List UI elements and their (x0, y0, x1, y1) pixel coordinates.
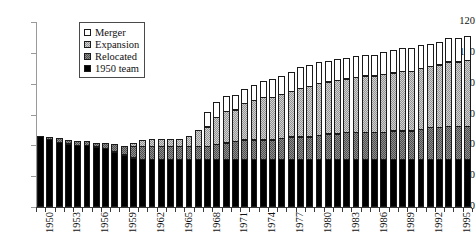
x-axis-tick-label: 1983 (351, 212, 361, 233)
bar-segment-merger (455, 38, 462, 63)
bar-segment-merger (241, 89, 248, 104)
bar-segment-1950-team (121, 155, 128, 207)
x-axis-tick (231, 208, 232, 212)
x-axis-tick-label: 1977 (295, 212, 305, 233)
bar-segment-relocated (223, 143, 230, 160)
bar-1964 (167, 138, 174, 207)
bar-1978 (297, 65, 304, 207)
bar-1990 (408, 47, 415, 207)
x-axis-tick (249, 208, 250, 212)
bar-segment-relocated (278, 138, 285, 160)
bar-segment-merger (371, 55, 378, 77)
bar-segment-1950-team (408, 159, 415, 207)
x-axis-tick-label: 1965 (184, 212, 194, 233)
bar-1960 (130, 142, 137, 207)
bar-1983 (343, 56, 350, 207)
legend-item-relocated: Relocated (84, 50, 139, 62)
bar-segment-relocated (130, 146, 137, 158)
bar-segment-merger (306, 65, 313, 87)
bar-1958 (111, 144, 118, 207)
x-axis-tick (166, 208, 167, 212)
x-axis-tick (277, 208, 278, 212)
bar-segment-expansion (186, 136, 193, 147)
bar-segment-expansion (371, 76, 378, 133)
bar-segment-relocated (353, 132, 360, 160)
bar-segment-merger (316, 62, 323, 84)
bar-segment-expansion (418, 68, 425, 130)
bar-segment-relocated (390, 131, 397, 160)
x-axis-tick (472, 208, 473, 212)
bar-segment-1950-team (390, 159, 397, 207)
bar-segment-expansion (232, 110, 239, 142)
bar-segment-merger (390, 50, 397, 73)
bar-segment-relocated (167, 146, 174, 160)
bar-segment-1950-team (436, 159, 443, 207)
bar-segment-1950-team (186, 159, 193, 207)
legend-item-merger: Merger (84, 26, 139, 38)
bar-segment-merger (297, 67, 304, 89)
relocated-swatch-icon (84, 53, 91, 60)
bar-1956 (93, 142, 100, 207)
bar-segment-relocated (436, 127, 443, 159)
bar-segment-expansion (297, 88, 304, 137)
bar-1965 (176, 138, 183, 207)
bar-segment-merger (213, 102, 220, 117)
bar-1988 (390, 48, 397, 207)
bar-1974 (260, 79, 267, 207)
bar-segment-merger (232, 95, 239, 110)
bar-segment-expansion (436, 65, 443, 128)
bar-segment-merger (353, 56, 360, 78)
x-axis-tick (119, 208, 120, 212)
x-axis-tick (203, 208, 204, 212)
bar-segment-merger (343, 58, 350, 80)
x-axis-tick (453, 208, 454, 212)
bar-1980 (316, 61, 323, 207)
bar-1954 (74, 141, 81, 207)
bar-segment-relocated (158, 146, 165, 160)
x-axis-tick-label: 1959 (128, 212, 138, 233)
bar-segment-1950-team (223, 159, 230, 207)
x-axis-tick-label: 1962 (156, 212, 166, 233)
bar-segment-1950-team (418, 159, 425, 207)
bar-segment-1950-team (149, 159, 156, 207)
bar-segment-expansion (380, 74, 387, 133)
bar-1951 (46, 136, 53, 207)
bar-segment-expansion (408, 71, 415, 131)
bar-segment-merger (251, 85, 258, 100)
x-axis-tick-label: 1971 (239, 212, 249, 233)
bar-segment-merger (380, 52, 387, 75)
bar-segment-expansion (195, 130, 202, 147)
legend-item-label: Merger (95, 27, 126, 38)
bar-segment-expansion (464, 60, 471, 126)
bar-segment-relocated (204, 146, 211, 160)
x-axis-tick (110, 208, 111, 212)
bar-segment-1950-team (195, 159, 202, 207)
bar-segment-expansion (316, 83, 323, 135)
legend-item-expansion: Expansion (84, 38, 139, 50)
bar-segment-1950-team (362, 159, 369, 207)
bar-1984 (353, 54, 360, 207)
bar-segment-1950-team (65, 144, 72, 207)
bar-segment-merger (436, 42, 443, 65)
bar-segment-merger (260, 81, 267, 98)
x-axis-tick (398, 208, 399, 212)
bar-segment-relocated (343, 132, 350, 160)
bar-1967 (195, 128, 202, 207)
bar-segment-1950-team (241, 159, 248, 207)
bar-1971 (232, 93, 239, 207)
x-axis-tick-label: 1956 (100, 212, 110, 233)
bar-segment-1950-team (380, 159, 387, 207)
bar-segment-1950-team (176, 159, 183, 207)
bar-segment-relocated (260, 140, 267, 160)
x-axis-tick-label: 1950 (45, 212, 55, 233)
bar-segment-relocated (399, 131, 406, 160)
x-axis-tick-label: 1968 (212, 212, 222, 233)
x-axis-tick (305, 208, 306, 212)
bar-1982 (334, 57, 341, 207)
bar-segment-1950-team (204, 159, 211, 207)
x-axis-tick (222, 208, 223, 212)
bar-segment-expansion (306, 86, 313, 137)
bar-segment-expansion (362, 76, 369, 133)
bar-1991 (418, 44, 425, 207)
bar-segment-relocated (213, 144, 220, 159)
